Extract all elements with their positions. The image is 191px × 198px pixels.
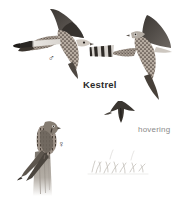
figure-kestrel-hovering-silhouette <box>104 101 135 123</box>
plate-artwork <box>0 0 191 198</box>
figure-kestrel-flight-male <box>13 9 94 79</box>
behaviour-label: hovering <box>138 126 170 134</box>
female-symbol: ♀ <box>58 140 65 149</box>
kestrel-illustration-plate: Kestrel hovering ♂ ♀ <box>0 0 191 198</box>
grass-sketch <box>88 150 148 174</box>
male-symbol: ♂ <box>48 54 55 63</box>
figure-kestrel-perched-female <box>17 121 61 196</box>
species-label: Kestrel <box>83 80 117 90</box>
